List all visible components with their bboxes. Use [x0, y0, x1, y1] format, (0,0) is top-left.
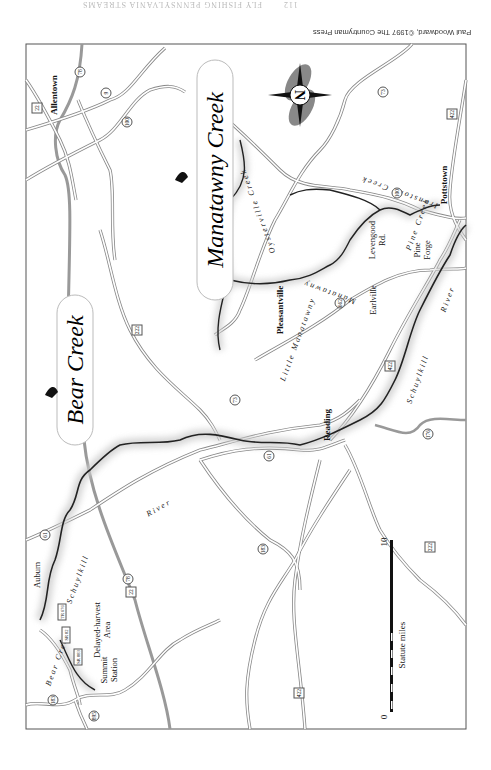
levengood-label: Levengood — [367, 220, 377, 259]
shield-422-east: 422 — [447, 109, 457, 119]
svg-text:SR 82: SR 82 — [64, 629, 69, 640]
scale-start: 0 — [379, 714, 389, 719]
shield-422-south: 422 — [294, 688, 304, 698]
bear-creek-title: Bear Creek — [62, 315, 88, 424]
shield-422: 422 — [385, 361, 395, 371]
svg-text:22: 22 — [34, 105, 40, 111]
shield-tr-676: TR 676 — [58, 604, 66, 620]
shield-sr-82: SR 82 — [62, 627, 70, 643]
town-earlville: Earlville — [368, 285, 378, 314]
svg-text:73: 73 — [232, 397, 238, 403]
shield-78-south: 78 — [123, 574, 133, 584]
bear-creek-title-box: Bear Creek — [57, 295, 93, 445]
shield-61-south: 61 — [40, 530, 50, 540]
svg-text:73: 73 — [380, 89, 386, 95]
delayed-harvest-label: Delayed-harvest — [92, 602, 102, 658]
svg-text:78: 78 — [125, 576, 131, 582]
manatawny-creek-title: Manatawny Creek — [202, 92, 228, 269]
manatawny-creek-title-box: Manatawny Creek — [197, 60, 233, 300]
map-page: 112 FLY FISHING PENNSYLVANIA STREAMS Pau… — [0, 0, 491, 770]
shield-662: 662 — [335, 298, 345, 308]
svg-text:176: 176 — [425, 430, 431, 439]
map: Bear Creek Manatawny Creek N Allentown P… — [0, 0, 491, 770]
shield-22-south: 22 — [126, 587, 136, 597]
town-forge: Forge — [422, 240, 432, 260]
levengood-rd-label: Rd. — [377, 234, 387, 246]
town-pleasantville: Pleasantville — [275, 286, 285, 335]
svg-text:9: 9 — [103, 91, 109, 94]
delayed-harvest-area-label: Area — [102, 622, 112, 639]
svg-text:222: 222 — [427, 543, 433, 552]
shield-73: 73 — [230, 395, 240, 405]
svg-text:895: 895 — [91, 712, 97, 721]
svg-text:183: 183 — [260, 545, 266, 554]
shield-73-north: 73 — [378, 87, 388, 97]
svg-text:61: 61 — [42, 532, 48, 538]
shield-22-north: 22 — [32, 103, 42, 113]
shield-61: 61 — [264, 451, 274, 461]
shield-222-north: 222 — [132, 325, 142, 335]
shield-895: 895 — [89, 711, 99, 721]
shield-9: 9 — [101, 88, 111, 98]
svg-text:SR 883: SR 883 — [76, 650, 81, 664]
svg-text:422: 422 — [449, 110, 455, 119]
shield-100-north: 100 — [122, 117, 132, 127]
town-station: Station — [109, 657, 119, 682]
svg-text:TR 676: TR 676 — [60, 604, 65, 618]
svg-text:61: 61 — [266, 453, 272, 459]
town-summit: Summit — [99, 656, 109, 684]
compass-north-label: N — [292, 90, 307, 100]
shield-100: 100 — [392, 188, 402, 198]
svg-text:183: 183 — [50, 696, 56, 705]
town-reading: Reading — [322, 409, 332, 442]
shield-78-north: 78 — [75, 67, 85, 77]
svg-text:100: 100 — [124, 118, 130, 127]
shield-sr-883: SR 883 — [74, 649, 82, 665]
scale-end: 10 — [379, 537, 389, 547]
svg-text:100: 100 — [394, 189, 400, 198]
shield-222-south: 222 — [425, 542, 435, 552]
scale-label: Statute miles — [397, 621, 407, 668]
svg-text:78: 78 — [77, 69, 83, 75]
shield-176: 176 — [423, 429, 433, 439]
svg-text:22: 22 — [128, 589, 134, 595]
town-allentown: Allentown — [49, 75, 59, 115]
svg-text:222: 222 — [134, 326, 140, 335]
svg-text:422: 422 — [387, 362, 393, 371]
svg-text:662: 662 — [337, 299, 343, 308]
town-pottstown: Pottstown — [439, 166, 449, 205]
shield-183: 183 — [258, 544, 268, 554]
svg-text:422: 422 — [296, 689, 302, 698]
town-auburn: Auburn — [32, 561, 42, 588]
shield-183-west: 183 — [48, 695, 58, 705]
